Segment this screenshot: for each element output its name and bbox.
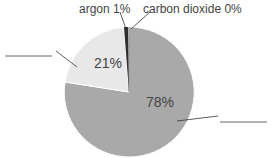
label-argon: argon 1% — [79, 2, 131, 16]
label-carbon-dioxide: carbon dioxide 0% — [143, 2, 242, 16]
label-nitrogen-pct: 78% — [146, 94, 174, 110]
pie-chart: argon 1% carbon dioxide 0% 21% 78% — [0, 0, 271, 158]
label-oxygen-pct: 21% — [94, 55, 122, 71]
